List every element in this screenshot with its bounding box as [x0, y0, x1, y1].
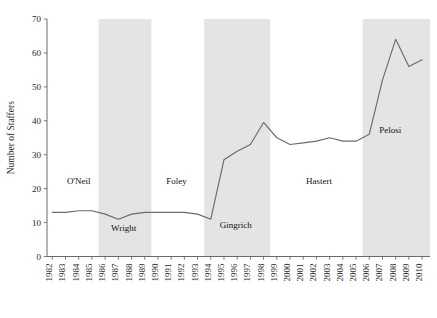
- y-tick-label: 70: [32, 14, 42, 24]
- tenure-band-pelosi: [363, 19, 430, 257]
- annotation-hastert: Hastert: [306, 176, 332, 186]
- x-tick-label: 2001: [295, 264, 305, 282]
- annotation-pelosi: Pelosi: [379, 125, 402, 135]
- annotation-oneil: O'Neil: [67, 176, 91, 186]
- x-tick-label: 1982: [44, 264, 54, 282]
- y-tick-label: 10: [32, 218, 42, 228]
- y-axis-title: Number of Staffers: [6, 101, 16, 174]
- y-tick-label: 30: [32, 150, 42, 160]
- x-tick-label: 1989: [137, 263, 147, 282]
- y-tick-label: 0: [37, 252, 42, 262]
- x-tick-label: 1998: [256, 263, 266, 282]
- x-tick-label: 1985: [84, 263, 94, 282]
- y-tick-label: 60: [32, 48, 42, 58]
- x-tick-label: 1993: [190, 263, 200, 282]
- x-tick-label: 2008: [388, 263, 398, 282]
- x-tick-label: 1991: [163, 264, 173, 282]
- x-tick-label: 1997: [242, 263, 252, 282]
- y-axis-title-text: Number of Staffers: [6, 101, 16, 174]
- annotation-wright: Wright: [111, 223, 137, 233]
- x-tick-label: 2000: [282, 263, 292, 282]
- x-tick-label: 1992: [176, 264, 186, 282]
- annotation-foley: Foley: [166, 176, 187, 186]
- staffers-line-chart: 010203040506070 198219831984198519861987…: [0, 0, 437, 318]
- x-tick-label: 1988: [124, 263, 134, 282]
- annotation-gingrich: Gingrich: [220, 220, 252, 230]
- x-tick-label: 1994: [203, 263, 213, 282]
- x-tick-label: 1986: [97, 263, 107, 282]
- x-tick-label: 2003: [322, 263, 332, 282]
- speaker-tenure-bands: [99, 19, 430, 257]
- x-tick-label: 1984: [71, 263, 81, 282]
- x-tick-label: 2009: [401, 263, 411, 282]
- chart-canvas: 010203040506070 198219831984198519861987…: [0, 0, 437, 318]
- x-tick-label: 1996: [229, 263, 239, 282]
- x-tick-label: 2007: [374, 263, 384, 282]
- x-tick-label: 2002: [308, 264, 318, 282]
- x-tick-label: 1999: [269, 263, 279, 282]
- x-tick-label: 2006: [361, 263, 371, 282]
- x-tick-label: 1987: [110, 263, 120, 282]
- tenure-band-wright: [99, 19, 152, 257]
- y-tick-label: 40: [32, 116, 42, 126]
- x-tick-label: 1995: [216, 263, 226, 282]
- x-tick-label: 1983: [57, 263, 67, 282]
- x-tick-label: 2010: [414, 263, 424, 282]
- y-tick-label: 50: [32, 82, 42, 92]
- x-tick-label: 2005: [348, 263, 358, 282]
- x-tick-label: 2004: [335, 263, 345, 282]
- x-tick-label: 1990: [150, 263, 160, 282]
- y-tick-label: 20: [32, 184, 42, 194]
